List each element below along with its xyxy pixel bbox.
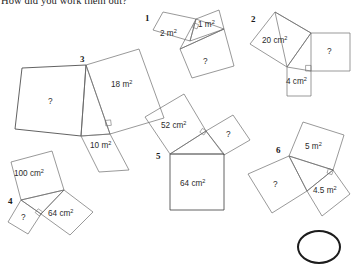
figure-3-square-a-label: ? <box>48 97 53 106</box>
figure-5-triangle <box>170 131 224 154</box>
figure-3-square-c <box>81 134 129 172</box>
figure-4-square-c-label: ? <box>21 213 26 222</box>
figure-2-square-a-label: 20 cm2 <box>262 35 287 45</box>
figure-3-square-b-label: 18 m2 <box>111 79 132 89</box>
corner-arc-decoration <box>297 230 341 264</box>
figure-2-square-b-label: ? <box>327 47 332 56</box>
figure-1: 1 2 m2 1 m2 ? <box>145 10 234 78</box>
figure-1-number: 1 <box>145 13 150 23</box>
figure-3: 3 ? 18 m2 10 m2 <box>15 49 164 172</box>
figure-5-square-c-label: 64 cm2 <box>180 178 205 188</box>
figure-6-number: 6 <box>276 145 281 155</box>
figure-2-number: 2 <box>251 14 256 24</box>
figure-2-square-c-label: 4 cm2 <box>286 76 307 86</box>
figure-3-number: 3 <box>80 54 85 64</box>
figure-6-square-a-label: 5 m2 <box>305 141 322 151</box>
figure-2: 2 20 cm2 ? 4 cm2 <box>250 12 350 96</box>
figure-6: 6 5 m2 4.5 m2 ? <box>248 122 350 216</box>
figure-6-square-b-label: 4.5 m2 <box>313 185 337 195</box>
figure-4-number: 4 <box>8 196 13 206</box>
figure-4: 4 100 cm2 64 cm2 ? <box>8 151 93 235</box>
figure-5: 5 52 cm2 ? 64 cm2 <box>145 94 250 210</box>
figure-4-square-b-label: 64 cm2 <box>48 208 73 218</box>
figure-1-square-c-label: ? <box>203 57 208 66</box>
figure-1-square-b-label: 1 m2 <box>198 19 215 29</box>
figure-5-square-a-label: 52 cm2 <box>161 120 186 130</box>
figure-5-square-b-label: ? <box>226 130 231 139</box>
figure-4-square-a-label: 100 cm2 <box>14 168 44 178</box>
figure-6-square-c-label: ? <box>273 180 278 189</box>
figure-3-square-b <box>86 49 164 134</box>
figure-5-number: 5 <box>156 151 161 161</box>
figure-3-square-c-label: 10 m2 <box>90 140 111 150</box>
